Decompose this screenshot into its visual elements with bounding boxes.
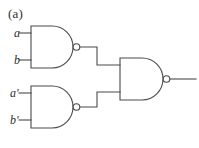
- wire-top-to-output-gate: [80, 47, 120, 65]
- wire-bottom-to-output-gate: [80, 92, 120, 107]
- circuit-canvas: [0, 0, 199, 148]
- nand-gate-output: [120, 58, 163, 100]
- nand-gate-bottom: [31, 86, 73, 128]
- nand-gate-bottom-bubble-icon: [73, 104, 80, 111]
- nand-gate-output-bubble-icon: [163, 76, 170, 83]
- nand-gate-top-bubble-icon: [73, 44, 80, 51]
- nand-gate-top: [31, 26, 73, 68]
- logic-circuit-figure: (a) a b a' b': [0, 0, 199, 148]
